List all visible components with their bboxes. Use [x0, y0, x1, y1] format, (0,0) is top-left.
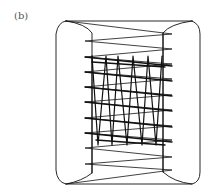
right-cushion: [163, 21, 200, 184]
horizontal-winding: [66, 21, 172, 184]
winding-drawing: [0, 0, 212, 195]
winding-diagram: (b): [0, 0, 212, 195]
